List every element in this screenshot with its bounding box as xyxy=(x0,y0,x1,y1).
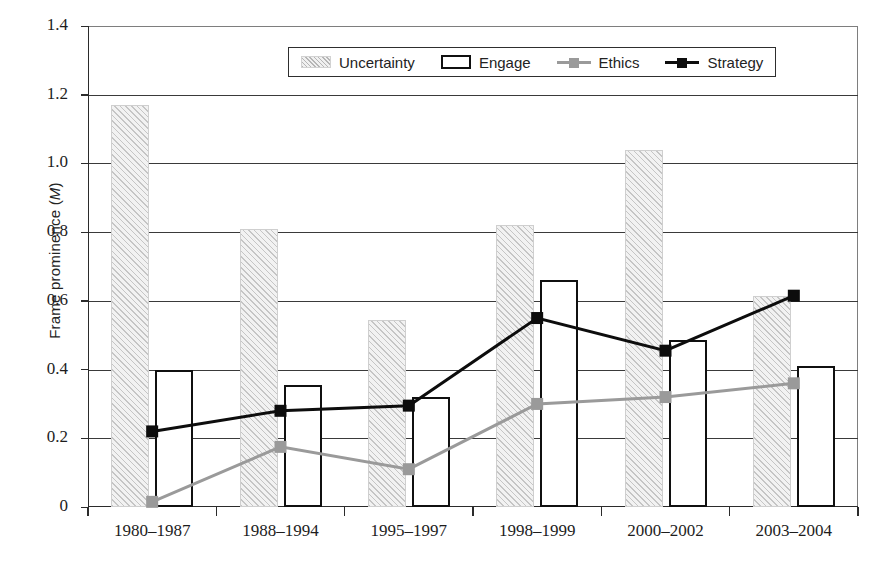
x-tick-mark xyxy=(857,507,858,516)
x-tick-mark xyxy=(472,507,473,516)
legend-label: Uncertainty xyxy=(339,54,415,71)
legend-entry-ethics[interactable]: Ethics xyxy=(557,54,640,71)
legend-square-marker xyxy=(569,58,579,68)
marker-strategy-5 xyxy=(788,290,800,302)
line-strategy xyxy=(152,296,794,432)
hatched-bar-swatch xyxy=(301,56,331,68)
marker-strategy-0 xyxy=(146,425,158,437)
chart-legend: UncertaintyEngageEthicsStrategy xyxy=(288,47,776,77)
legend-label: Engage xyxy=(479,54,531,71)
marker-ethics-5 xyxy=(788,377,800,389)
x-tick-mark xyxy=(216,507,217,516)
marker-strategy-3 xyxy=(531,312,543,324)
legend-entry-engage[interactable]: Engage xyxy=(441,54,531,71)
legend-entry-uncertainty[interactable]: Uncertainty xyxy=(301,54,415,71)
legend-square-marker xyxy=(677,58,687,68)
legend-entry-strategy[interactable]: Strategy xyxy=(665,54,763,71)
marker-ethics-0 xyxy=(146,496,158,508)
line-series-layer xyxy=(0,0,876,564)
outlined-bar-swatch xyxy=(441,55,471,69)
x-tick-label: 2003–2004 xyxy=(714,521,874,541)
marker-strategy-1 xyxy=(275,405,287,417)
x-tick-mark xyxy=(87,507,88,516)
x-tick-mark xyxy=(344,507,345,516)
legend-label: Strategy xyxy=(707,54,763,71)
x-tick-mark xyxy=(601,507,602,516)
marker-strategy-2 xyxy=(403,400,415,412)
line-ethics xyxy=(152,383,794,502)
gray-line-square-swatch xyxy=(557,55,591,69)
marker-ethics-4 xyxy=(660,391,672,403)
marker-ethics-2 xyxy=(403,463,415,475)
chart-figure: Frame prominence (M) 00.20.40.60.81.01.2… xyxy=(0,0,876,564)
marker-ethics-3 xyxy=(531,398,543,410)
legend-label: Ethics xyxy=(599,54,640,71)
x-tick-mark xyxy=(729,507,730,516)
marker-ethics-1 xyxy=(275,441,287,453)
marker-strategy-4 xyxy=(660,345,672,357)
black-line-square-swatch xyxy=(665,55,699,69)
